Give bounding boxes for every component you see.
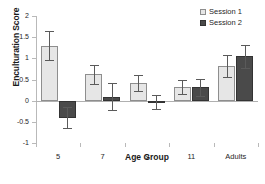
plot-area: 21.510.50-0.5-1 57911Adults xyxy=(36,16,258,143)
error-bar-cap xyxy=(63,107,72,108)
y-axis-tick: 1.5 xyxy=(32,37,37,38)
y-axis-tick: -0.5 xyxy=(32,122,37,123)
error-bar-cap xyxy=(152,95,161,96)
x-axis-tick xyxy=(125,143,126,147)
x-axis-tick xyxy=(80,143,81,147)
error-bar-cap xyxy=(90,84,99,85)
y-axis-title: Enculturation Score xyxy=(11,0,21,107)
error-bar-stem xyxy=(200,79,201,96)
y-axis-tick-label: -0.5 xyxy=(17,117,29,126)
error-bar-cap xyxy=(223,55,232,56)
x-axis-tick xyxy=(258,143,259,147)
error-bar-cap xyxy=(223,77,232,78)
error-bar-stem xyxy=(182,80,183,95)
error-bar-cap xyxy=(196,79,205,80)
y-axis-tick: 0.5 xyxy=(32,80,37,81)
error-bar-cap xyxy=(152,109,161,110)
error-bar-stem xyxy=(67,107,68,128)
y-axis-tick: 2 xyxy=(32,16,37,17)
legend-item-session-2: Session 2 xyxy=(200,17,242,28)
y-axis-tick-label: 0 xyxy=(25,96,29,105)
error-bar-stem xyxy=(94,65,95,84)
error-bar-cap xyxy=(178,80,187,81)
legend-item-session-1: Session 1 xyxy=(200,6,242,17)
x-axis-tick xyxy=(36,143,37,147)
error-bar-cap xyxy=(196,96,205,97)
legend-label-session-1: Session 1 xyxy=(209,7,242,17)
y-axis-tick-label: 1.5 xyxy=(19,32,29,41)
error-bar-cap xyxy=(108,110,117,111)
error-bar-cap xyxy=(178,94,187,95)
error-bar-cap xyxy=(108,83,117,84)
y-axis-tick-label: 0.5 xyxy=(19,75,29,84)
error-bar-stem xyxy=(112,83,113,110)
error-bar-cap xyxy=(134,75,143,76)
error-bar-cap xyxy=(241,45,250,46)
error-bar-stem xyxy=(227,55,228,77)
error-bar-cap xyxy=(45,31,54,32)
x-axis-tick xyxy=(214,143,215,147)
legend-label-session-2: Session 2 xyxy=(209,18,242,28)
x-axis-tick xyxy=(169,143,170,147)
error-bar-stem xyxy=(245,45,246,68)
legend-swatch-session-2-icon xyxy=(200,20,206,26)
enculturation-bar-chart: Enculturation Score 21.510.50-0.5-1 5791… xyxy=(0,0,265,184)
y-axis-tick: 1 xyxy=(32,58,37,59)
error-bar-cap xyxy=(134,91,143,92)
y-axis-tick-label: -1 xyxy=(23,138,29,147)
error-bar-cap xyxy=(241,68,250,69)
error-bar-cap xyxy=(45,60,54,61)
error-bar-stem xyxy=(49,31,50,60)
y-axis-tick-label: 2 xyxy=(25,11,29,20)
error-bar-stem xyxy=(138,75,139,91)
error-bar-stem xyxy=(156,95,157,109)
legend-swatch-session-1-icon xyxy=(200,9,206,15)
error-bar-cap xyxy=(90,65,99,66)
y-axis-tick-label: 1 xyxy=(25,53,29,62)
x-axis-title: Age Group xyxy=(36,152,258,162)
error-bar-cap xyxy=(63,128,72,129)
legend: Session 1 Session 2 xyxy=(200,6,242,28)
